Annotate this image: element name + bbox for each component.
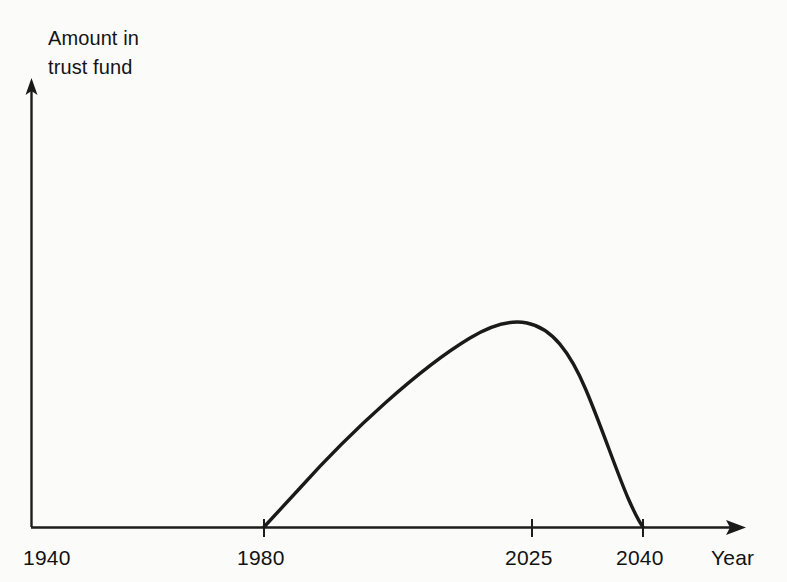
x-axis-title: Year (711, 546, 754, 569)
x-tick-label-1980: 1980 (237, 546, 285, 569)
x-tick-label-2025: 2025 (505, 546, 553, 569)
x-tick-label-1940: 1940 (23, 546, 71, 569)
y-axis-title-line1: Amount in (48, 27, 139, 49)
chart-canvas: Amount in trust fund 1940 1980 2025 2040… (0, 0, 787, 582)
chart-background (0, 0, 787, 582)
trust-fund-chart: Amount in trust fund 1940 1980 2025 2040… (0, 0, 787, 582)
y-axis-title-line2: trust fund (48, 56, 132, 78)
x-tick-label-2040: 2040 (616, 546, 664, 569)
